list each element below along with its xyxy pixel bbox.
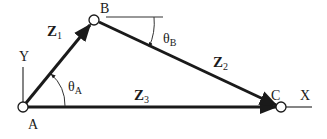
vector-loop-diagram xyxy=(0,0,327,139)
vector-z2-label: Z2 xyxy=(213,55,228,72)
point-c-label: C xyxy=(271,89,280,103)
y-axis-label: Y xyxy=(19,50,29,64)
theta-a-subscript: A xyxy=(75,85,82,96)
z2-subscript: 2 xyxy=(223,61,228,72)
theta-a-label: θA xyxy=(68,80,82,96)
z1-symbol: Z xyxy=(47,23,57,39)
theta-b-label: θB xyxy=(163,32,176,48)
joint-a xyxy=(18,102,28,112)
point-b-label: B xyxy=(100,2,109,16)
z3-symbol: Z xyxy=(134,87,144,103)
joint-c xyxy=(276,102,286,112)
vector-z1-label: Z1 xyxy=(47,24,62,41)
theta-b-subscript: B xyxy=(170,37,177,48)
x-axis-label: X xyxy=(300,89,310,103)
vector-z3-label: Z3 xyxy=(134,88,149,105)
theta-a-arc xyxy=(51,74,65,106)
vector-z2 xyxy=(99,22,276,105)
z1-subscript: 1 xyxy=(57,30,62,41)
theta-b-arc xyxy=(149,17,154,47)
theta-b-symbol: θ xyxy=(163,31,170,46)
point-a-label: A xyxy=(28,118,38,132)
z3-subscript: 3 xyxy=(144,94,149,105)
z2-symbol: Z xyxy=(213,54,223,70)
theta-a-symbol: θ xyxy=(68,79,75,94)
joint-b xyxy=(89,15,99,25)
